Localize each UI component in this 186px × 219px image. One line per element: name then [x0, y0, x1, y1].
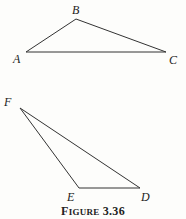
- vertex-label-c: C: [169, 53, 178, 67]
- caption-initial: F: [61, 204, 69, 218]
- caption-word: IGURE: [69, 207, 100, 217]
- vertex-label-e: E: [66, 190, 75, 204]
- figure-caption: FIGURE 3.36: [0, 204, 186, 219]
- triangle-abc: [26, 19, 166, 52]
- vertex-label-d: D: [140, 190, 150, 204]
- caption-number: 3.36: [103, 204, 125, 218]
- triangle-fed: [20, 108, 140, 188]
- figure-canvas: A B C F E D: [0, 0, 186, 219]
- vertex-label-a: A: [12, 52, 21, 66]
- vertex-label-b: B: [72, 3, 80, 17]
- vertex-label-f: F: [3, 95, 12, 109]
